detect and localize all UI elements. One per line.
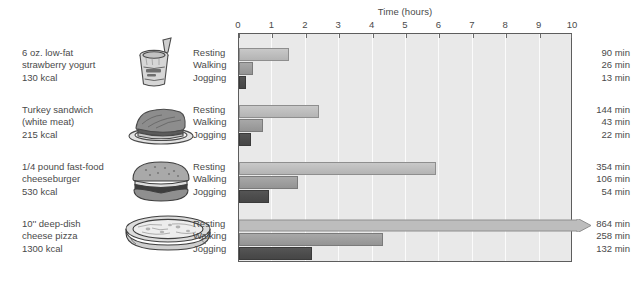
tickmark-10 [571,34,572,38]
tickmark-9 [540,34,541,38]
minutes-value: 22 min [578,129,630,142]
tickmark-2 [306,34,307,38]
plot-area [238,33,572,262]
food-description-line: 1300 kcal [22,243,130,256]
minutes-value: 864 min [578,218,630,231]
sandwich-icon [126,100,196,146]
food-description-line: 130 kcal [22,72,130,85]
chart-figure: Time (hours) 012345678910 6 oz. low-fats… [0,0,636,282]
minutes-group-4: 864 min258 min132 min [578,218,630,256]
x-axis-tick-2: 2 [302,19,307,30]
x-axis-tick-4: 4 [369,19,374,30]
x-axis-tick-0: 0 [235,19,240,30]
activity-labels-group-2: RestingWalkingJogging [193,104,237,142]
bar-jogging [239,76,246,89]
x-axis-tick-5: 5 [402,19,407,30]
food-description-line: strawberry yogurt [22,59,130,72]
tickmark-7 [473,34,474,38]
minutes-value: 258 min [578,230,630,243]
food-description-line: 1/4 pound fast-food [22,161,130,174]
x-axis-title: Time (hours) [238,6,572,17]
tickmark-4 [373,34,374,38]
bar-jogging [239,133,251,146]
food-description-line: cheeseburger [22,173,130,186]
activity-labels-group-4: RestingWalkingJogging [193,218,237,256]
x-axis-tick-10: 10 [567,19,578,30]
tickmark-8 [506,34,507,38]
food-description-line: cheese pizza [22,230,130,243]
minutes-value: 54 min [578,186,630,199]
activity-labels-group-1: RestingWalkingJogging [193,47,237,85]
food-description-line: Turkey sandwich [22,104,130,117]
food-description-line: 10'' deep-dish [22,218,130,231]
activity-label-resting: Resting [193,47,237,60]
bar-walking [239,62,253,75]
food-description-line: 530 kcal [22,186,130,199]
activity-labels-group-3: RestingWalkingJogging [193,161,237,199]
cheeseburger-icon [128,157,194,205]
activity-label-resting: Resting [193,218,237,231]
minutes-value: 26 min [578,59,630,72]
x-axis-tick-9: 9 [536,19,541,30]
minutes-value: 354 min [578,161,630,174]
minutes-value: 90 min [578,47,630,60]
bar-jogging [239,247,312,260]
food-description-group-3: 1/4 pound fast-foodcheeseburger530 kcal [22,161,130,199]
tickmark-6 [439,34,440,38]
bar-walking [239,119,263,132]
x-axis-tick-7: 7 [469,19,474,30]
activity-label-walking: Walking [193,173,237,186]
yogurt-cup-icon [130,36,186,88]
bar-walking [239,233,383,246]
activity-label-jogging: Jogging [193,72,237,85]
tickmark-1 [272,34,273,38]
food-description-line: 6 oz. low-fat [22,47,130,60]
x-axis-tick-1: 1 [269,19,274,30]
food-description-group-1: 6 oz. low-fatstrawberry yogurt130 kcal [22,47,130,85]
minutes-group-1: 90 min26 min13 min [578,47,630,85]
minutes-value: 106 min [578,173,630,186]
activity-label-jogging: Jogging [193,243,237,256]
minutes-value: 13 min [578,72,630,85]
tickmark-5 [406,34,407,38]
minutes-group-3: 354 min106 min54 min [578,161,630,199]
activity-label-walking: Walking [193,116,237,129]
food-description-line: 215 kcal [22,129,130,142]
minutes-value: 43 min [578,116,630,129]
activity-label-resting: Resting [193,104,237,117]
bar-resting [239,105,319,118]
activity-label-resting: Resting [193,161,237,174]
food-description-line: (white meat) [22,116,130,129]
activity-label-jogging: Jogging [193,129,237,142]
minutes-group-2: 144 min43 min22 min [578,104,630,142]
minutes-value: 144 min [578,104,630,117]
x-axis-tick-6: 6 [436,19,441,30]
food-description-group-4: 10'' deep-dishcheese pizza1300 kcal [22,218,130,256]
bar-resting [239,219,591,232]
bar-resting [239,48,289,61]
tickmark-0 [239,34,240,38]
bar-walking [239,176,298,189]
minutes-value: 132 min [578,243,630,256]
bar-resting [239,162,436,175]
tickmark-3 [339,34,340,38]
food-description-group-2: Turkey sandwich(white meat)215 kcal [22,104,130,142]
x-axis-tick-3: 3 [336,19,341,30]
x-axis-tick-8: 8 [503,19,508,30]
activity-label-walking: Walking [193,230,237,243]
activity-label-walking: Walking [193,59,237,72]
activity-label-jogging: Jogging [193,186,237,199]
bar-jogging [239,190,269,203]
